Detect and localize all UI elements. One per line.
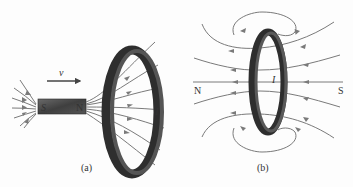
figure: S N v I (a) (0, 0, 353, 187)
field-arrowheads-b (228, 28, 309, 132)
diagram-svg: S N v I (a) (0, 0, 353, 187)
panel-b: I N S (b) (193, 12, 344, 174)
panel-a: S N v I (a) (12, 42, 164, 174)
field-lines-left (12, 80, 36, 128)
current-label-b: I (271, 74, 276, 85)
velocity-label: v (59, 67, 64, 78)
bar-magnet: S N (38, 99, 86, 114)
caption-a: (a) (81, 162, 92, 174)
velocity-arrow: v (47, 67, 80, 81)
south-label-b: S (338, 85, 344, 96)
magnet-south-label: S (41, 102, 46, 113)
conducting-ring-a (106, 50, 162, 174)
caption-b: (b) (257, 162, 269, 174)
magnet-north-label: N (76, 102, 83, 113)
north-label-b: N (194, 85, 201, 96)
